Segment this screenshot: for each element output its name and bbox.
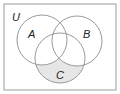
venn-diagram: U A B C [0, 0, 120, 94]
set-c-label: C [56, 69, 64, 81]
universe-label: U [12, 11, 20, 23]
set-b-label: B [83, 28, 90, 40]
set-a-label: A [27, 28, 35, 40]
